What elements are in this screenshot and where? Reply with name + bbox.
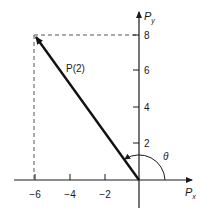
- theta-label: θ: [163, 151, 169, 162]
- x-tick-label-minus6: −6: [29, 189, 41, 200]
- y-tick-label-2: 2: [144, 138, 150, 149]
- x-axis: −6 −4 −2 Px: [14, 174, 196, 200]
- x-axis-label: Px: [185, 186, 196, 200]
- y-tick-label-8: 8: [144, 30, 150, 41]
- y-tick-label-6: 6: [144, 65, 150, 76]
- angle-theta: θ: [125, 151, 169, 180]
- vector-diagram: −6 −4 −2 Px 2 4 6 8 Py P(2): [0, 0, 208, 218]
- vector-p2: P(2): [36, 37, 139, 180]
- y-tick-label-4: 4: [144, 102, 150, 113]
- x-tick-label-minus4: −4: [64, 189, 76, 200]
- y-axis-label: Py: [144, 10, 155, 25]
- vector-arrow-line: [36, 37, 139, 180]
- x-tick-label-minus2: −2: [99, 189, 111, 200]
- vector-label: P(2): [66, 63, 85, 74]
